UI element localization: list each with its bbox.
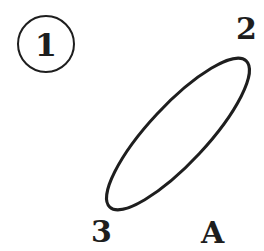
figure-number: 1 [35,29,57,61]
figure-number-badge: 1 [17,15,75,73]
diagram-canvas: 1 2 3 A [0,0,264,251]
panel-label: A [201,218,224,248]
point-label-2: 2 [236,14,257,44]
point-label-3: 3 [91,217,112,247]
tilted-ellipse [89,41,264,227]
